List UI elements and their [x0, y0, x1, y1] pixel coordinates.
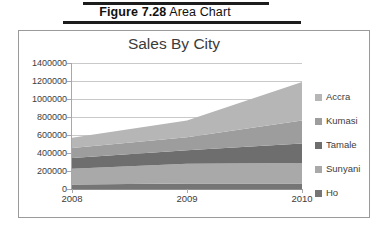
figure-caption-block: Figure 7.28 Area Chart [0, 0, 389, 28]
stacked-area-series [72, 63, 302, 189]
chart-container: Sales By City 02000004000006000008000001… [18, 30, 370, 218]
legend-label: Kumasi [326, 116, 358, 126]
plot-area [72, 63, 302, 189]
y-axis-tick-label: 400000 [19, 149, 67, 158]
y-axis-tick-label: 1200000 [19, 77, 67, 86]
y-axis-tick-label: 600000 [19, 131, 67, 140]
y-axis-tick-label: 1400000 [19, 59, 67, 68]
legend-label: Accra [326, 92, 350, 102]
legend-item-sunyani[interactable]: Sunyani [315, 163, 360, 175]
caption-rule-bottom [63, 21, 301, 24]
x-axis-tick-label: 2009 [175, 193, 199, 204]
legend-swatch-icon [315, 166, 322, 173]
y-axis-tickmark [67, 171, 71, 172]
y-axis-tickmark [67, 153, 71, 154]
y-axis-tickmark [67, 135, 71, 136]
y-axis-tick-label: 200000 [19, 167, 67, 176]
legend-item-tamale[interactable]: Tamale [315, 139, 357, 151]
y-axis-tickmark [67, 117, 71, 118]
y-axis-tickmark [67, 81, 71, 82]
legend-swatch-icon [315, 142, 322, 149]
y-axis-tick-label: 1000000 [19, 95, 67, 104]
y-axis-tickmark [67, 99, 71, 100]
y-axis-tickmark [67, 189, 71, 190]
figure-title: Area Chart [166, 5, 230, 19]
chart-legend: AccraKumasiTamaleSunyaniHo [315, 61, 371, 189]
legend-swatch-icon [315, 190, 322, 197]
legend-item-kumasi[interactable]: Kumasi [315, 115, 358, 127]
chart-title: Sales By City [59, 35, 289, 53]
y-axis-tickmark [67, 63, 71, 64]
legend-label: Sunyani [326, 164, 360, 174]
y-axis-tick-label: 800000 [19, 113, 67, 122]
figure-number: Figure 7.28 [99, 5, 166, 19]
legend-item-ho[interactable]: Ho [315, 187, 338, 199]
x-axis-tick-label: 2010 [290, 193, 314, 204]
legend-item-accra[interactable]: Accra [315, 91, 350, 103]
legend-label: Tamale [326, 140, 357, 150]
legend-swatch-icon [315, 94, 322, 101]
legend-swatch-icon [315, 118, 322, 125]
legend-label: Ho [326, 188, 338, 198]
x-axis-tick-label: 2008 [60, 193, 84, 204]
figure-caption: Figure 7.28 Area Chart [0, 5, 330, 19]
